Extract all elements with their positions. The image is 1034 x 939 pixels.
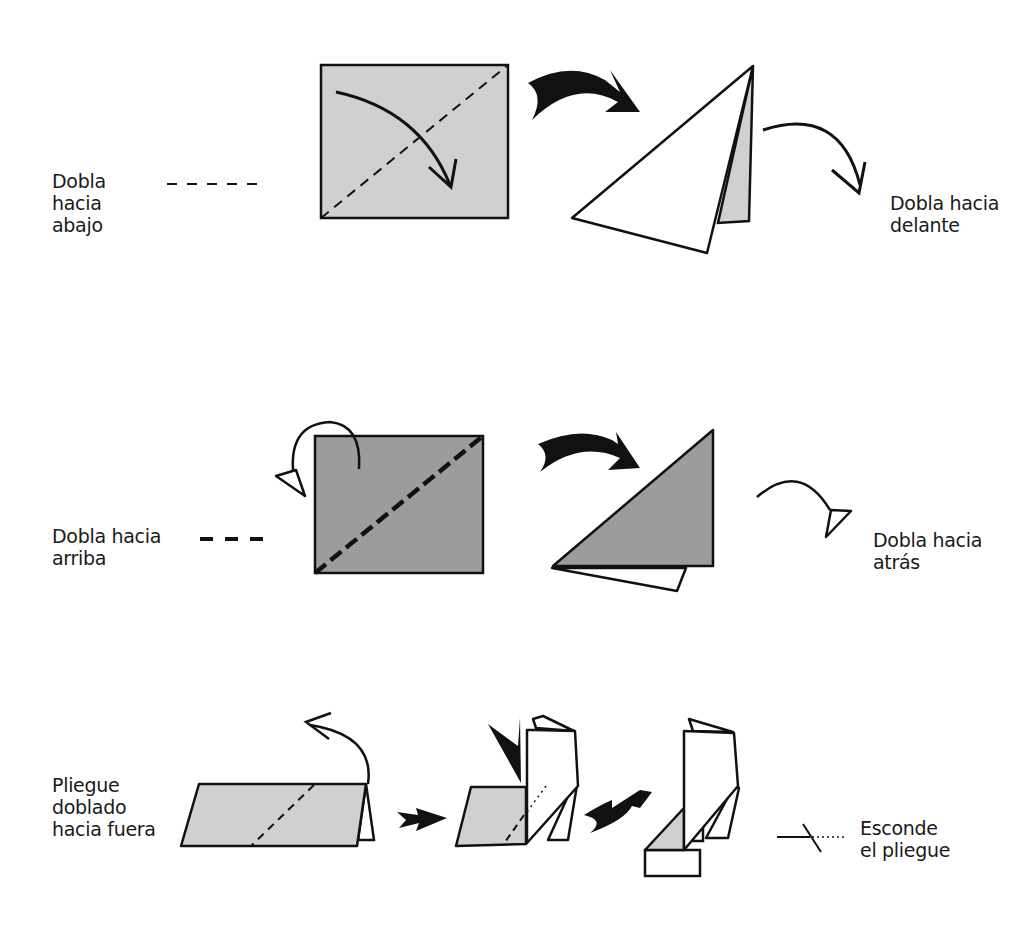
fold-forward-arrow-icon xyxy=(763,124,865,193)
origami-fold-legend: Dobla hacia abajo Dobla hacia delante Do… xyxy=(0,0,1034,939)
bold-step-arrow-icon xyxy=(538,432,640,472)
square-paper-dark xyxy=(315,436,483,573)
partially-folded-paper xyxy=(456,716,578,846)
label-fold-behind: Dobla hacia atrás xyxy=(873,529,982,573)
fold-behind-arrow-icon xyxy=(757,481,851,537)
bold-step-arrow-icon xyxy=(528,70,640,120)
label-inside-reverse-fold: Pliegue doblado hacia fuera xyxy=(52,774,156,840)
label-fold-forward: Dobla hacia delante xyxy=(890,192,999,236)
label-mountain-fold: Dobla hacia arriba xyxy=(52,525,161,569)
bold-step-arrow-icon xyxy=(584,790,652,833)
square-paper-light xyxy=(321,65,508,218)
hidden-fold-symbol-icon xyxy=(777,824,845,852)
label-hidden-fold: Esconde el pliegue xyxy=(860,817,950,861)
small-step-arrow-icon xyxy=(397,808,447,831)
reverse-fold-arrow-icon xyxy=(306,713,369,784)
label-valley-fold: Dobla hacia abajo xyxy=(52,170,106,236)
triangle-folded-dark xyxy=(552,430,713,591)
finished-fold-paper xyxy=(645,719,739,876)
push-arrow-icon xyxy=(488,718,521,783)
parallelogram-paper xyxy=(181,784,374,846)
